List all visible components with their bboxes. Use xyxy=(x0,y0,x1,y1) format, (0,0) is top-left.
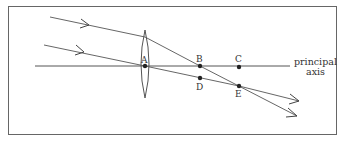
ray-diagram: A B C D E principal axis xyxy=(0,0,343,141)
axis-label-line2: axis xyxy=(306,66,325,77)
label-C: C xyxy=(235,54,242,64)
label-A: A xyxy=(140,55,148,65)
ray-2 xyxy=(44,45,299,101)
point-E xyxy=(237,84,241,88)
point-D xyxy=(198,76,202,80)
arrow-icon xyxy=(75,45,84,55)
label-D: D xyxy=(196,82,203,92)
point-B xyxy=(198,64,202,68)
diagram-frame xyxy=(9,7,337,135)
label-B: B xyxy=(196,54,203,64)
arrow-icon xyxy=(286,108,297,117)
label-E: E xyxy=(235,89,242,99)
point-C xyxy=(237,65,241,69)
